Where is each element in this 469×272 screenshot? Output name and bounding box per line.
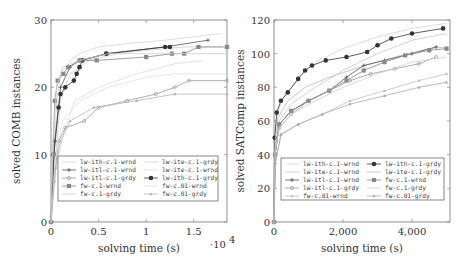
legend-label: lw-ith-c.1-grdy	[162, 174, 218, 182]
x-scale-note: ·10	[210, 239, 226, 250]
marker-square	[225, 45, 229, 49]
marker-circle	[163, 45, 168, 50]
marker-circle	[149, 176, 154, 181]
marker-circle	[365, 50, 370, 55]
y-tick-label: 120	[251, 15, 270, 26]
y-axis-label: solved SATComp instances	[234, 49, 246, 192]
marker-square	[67, 184, 71, 188]
marker-circle	[375, 43, 380, 48]
y-tick-label: 100	[251, 49, 270, 60]
legend-label: lw-ith-c.1-wrnd	[303, 160, 359, 167]
legend-label: fw-c.1-wrnd	[385, 176, 426, 183]
marker-circle	[389, 36, 394, 41]
marker-circle	[296, 77, 301, 82]
legend-label: lw-itl-c.1-grdy	[80, 174, 136, 182]
marker-square	[444, 47, 448, 51]
marker-circle	[58, 92, 63, 97]
marker-circle	[372, 162, 377, 167]
series-fw-c.01-grdy	[272, 80, 448, 223]
legend: lw-ith-c.1-wrndlw-ite-c.1-grdylw-itl-c.1…	[58, 156, 218, 201]
legend-label: lw-ite-c.1-wrnd	[303, 168, 359, 175]
legend-label: fw-c.01-wrnd	[162, 182, 207, 189]
marker-circle	[344, 55, 349, 60]
marker-circle	[56, 105, 61, 110]
marker-square	[382, 60, 386, 64]
legend-label: fw-c.1-grdy	[385, 184, 426, 192]
legend-label: fw-c.01-wrnd	[303, 192, 348, 199]
legend: lw-ith-c.1-wrndlw-ith-c.1-grdylw-ite-c.1…	[281, 158, 444, 200]
marker-circle	[63, 85, 68, 90]
series-fw-c.01-wrnd	[272, 72, 448, 223]
legend-label: lw-ite-c.1-grdy	[385, 168, 441, 176]
marker-square	[144, 55, 148, 59]
marker-square	[403, 53, 407, 57]
marker-square	[61, 72, 65, 76]
legend-label: lw-ith-c.1-wrnd	[80, 158, 136, 165]
legend-label: fw-c.01-grdy	[385, 192, 430, 200]
x-tick-label: 0.5	[91, 226, 107, 237]
legend-label: lw-itl-c.1-wrnd	[80, 166, 136, 173]
legend-label: lw-itl-c.1-grdy	[303, 184, 359, 192]
marker-circle	[279, 99, 284, 104]
y-tick-label: 20	[34, 82, 47, 93]
y-tick-label: 10	[34, 150, 47, 161]
x-tick-label: 0	[48, 226, 54, 237]
marker-triangle	[445, 72, 448, 75]
marker-square	[427, 48, 431, 52]
x-axis-label: solving time (s)	[98, 242, 180, 254]
legend-label: lw-ite-c.1-grdy	[162, 158, 218, 166]
x-tick-label: 2,000	[329, 226, 358, 237]
marker-square	[362, 68, 366, 72]
marker-circle	[310, 63, 315, 68]
legend-label: lw-itl-c.1-wrnd	[303, 176, 359, 183]
y-tick-label: 0	[264, 217, 270, 228]
x-tick-label: 1	[143, 226, 149, 237]
marker-square	[372, 178, 376, 182]
marker-circle	[274, 110, 279, 115]
marker-square	[196, 45, 200, 49]
marker-circle	[168, 45, 173, 50]
legend-label: fw-c.1-grdy	[80, 190, 121, 198]
x-tick-label: 0	[271, 226, 277, 237]
legend-label: fw-c.01-grdy	[162, 190, 207, 198]
y-tick-label: 60	[257, 116, 270, 127]
marker-square	[53, 99, 57, 103]
x-axis-label: solving time (s)	[321, 242, 403, 254]
x-tick-label: 4,000	[398, 226, 427, 237]
marker-circle	[77, 65, 82, 70]
marker-triangle	[445, 80, 448, 83]
legend-label: fw-c.1-wrnd	[80, 182, 121, 189]
chart-2: 02,0004,000020406080100120solving time (…	[234, 15, 450, 254]
marker-circle	[303, 68, 308, 73]
marker-circle	[441, 26, 446, 31]
legend-label: lw-ite-c.1-wrnd	[162, 166, 218, 173]
y-tick-label: 0	[41, 217, 47, 228]
marker-circle	[74, 72, 79, 77]
marker-circle	[410, 31, 415, 36]
series-line	[274, 82, 447, 222]
y-tick-label: 80	[257, 82, 270, 93]
y-tick-label: 20	[257, 183, 270, 194]
marker-circle	[323, 58, 328, 63]
marker-square	[95, 58, 99, 62]
marker-circle	[286, 90, 291, 95]
marker-circle	[72, 78, 77, 83]
y-tick-label: 30	[34, 15, 47, 26]
chart-canvas: 00.511.50102030solving time (s)solved CO…	[0, 0, 469, 272]
y-axis-label: solved COMB instances	[10, 58, 22, 184]
y-tick-label: 40	[257, 150, 270, 161]
chart-1: 00.511.50102030solving time (s)solved CO…	[10, 15, 235, 254]
x-scale-exponent: 4	[229, 234, 235, 245]
x-tick-label: 1.5	[186, 226, 202, 237]
legend-label: lw-ith-c.1-grdy	[385, 160, 441, 168]
